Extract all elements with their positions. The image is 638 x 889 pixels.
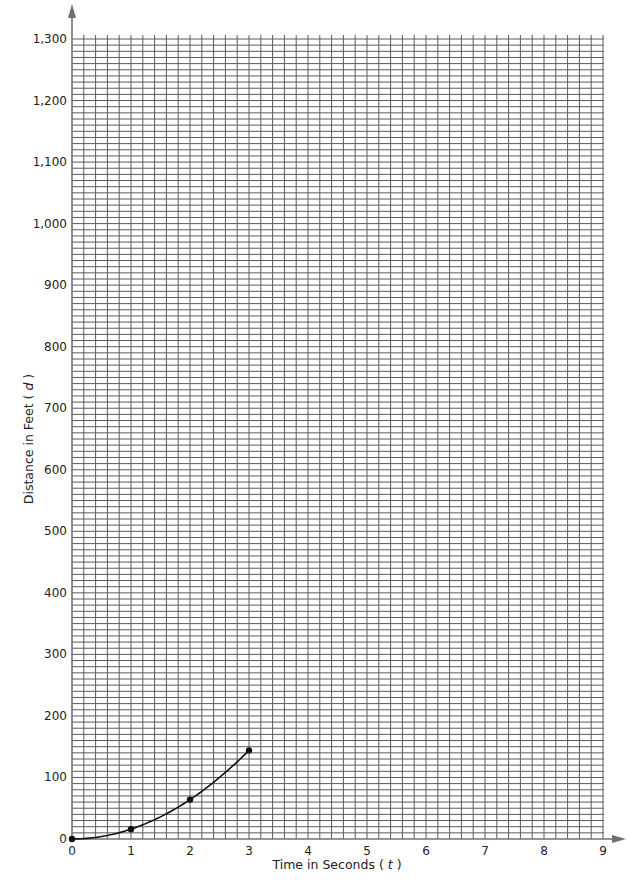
y-tick-label: 400 bbox=[44, 586, 67, 600]
y-tick-labels: 01002003004005006007008009001,0001,1001,… bbox=[33, 32, 67, 846]
x-tick-label: 2 bbox=[186, 844, 194, 858]
data-point bbox=[69, 836, 75, 842]
x-tick-label: 8 bbox=[540, 844, 548, 858]
x-tick-label: 7 bbox=[481, 844, 489, 858]
y-tick-label: 0 bbox=[59, 832, 67, 846]
x-tick-label: 5 bbox=[363, 844, 371, 858]
y-tick-label: 500 bbox=[44, 524, 67, 538]
distance-time-chart: 01002003004005006007008009001,0001,1001,… bbox=[0, 0, 638, 889]
y-tick-label: 700 bbox=[44, 401, 67, 415]
y-tick-label: 600 bbox=[44, 463, 67, 477]
x-tick-label: 3 bbox=[245, 844, 253, 858]
y-tick-label: 1,200 bbox=[33, 94, 67, 108]
data-point bbox=[187, 796, 193, 802]
series-line bbox=[72, 750, 249, 839]
y-tick-label: 100 bbox=[44, 770, 67, 784]
y-axis-label: Distance in Feet ( d ) bbox=[21, 374, 36, 504]
grid-lines bbox=[72, 35, 604, 839]
x-tick-label: 1 bbox=[127, 844, 135, 858]
x-tick-label: 6 bbox=[422, 844, 430, 858]
x-axis-label: Time in Seconds ( t ) bbox=[271, 857, 401, 872]
x-tick-label: 4 bbox=[304, 844, 312, 858]
x-tick-label: 9 bbox=[599, 844, 607, 858]
axes bbox=[68, 4, 626, 843]
y-tick-label: 1,000 bbox=[33, 217, 67, 231]
y-tick-label: 300 bbox=[44, 647, 67, 661]
x-tick-labels: 0123456789 bbox=[68, 844, 607, 858]
y-tick-label: 1,300 bbox=[33, 32, 67, 46]
data-series bbox=[69, 747, 252, 842]
x-tick-label: 0 bbox=[68, 844, 76, 858]
data-point bbox=[246, 747, 252, 753]
y-tick-label: 800 bbox=[44, 340, 67, 354]
y-tick-label: 1,100 bbox=[33, 155, 67, 169]
data-point bbox=[128, 826, 134, 832]
y-tick-label: 200 bbox=[44, 709, 67, 723]
y-tick-label: 900 bbox=[44, 278, 67, 292]
